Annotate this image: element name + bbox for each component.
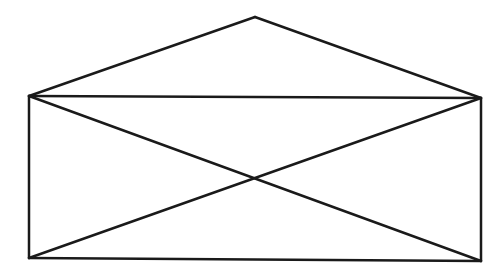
rect-top-edge [29, 96, 481, 98]
rect-bottom-edge [29, 258, 481, 261]
flap-right-edge [255, 17, 481, 98]
diagram-segments [29, 17, 481, 261]
envelope-diagram [0, 0, 495, 279]
flap-left-edge [29, 17, 255, 96]
